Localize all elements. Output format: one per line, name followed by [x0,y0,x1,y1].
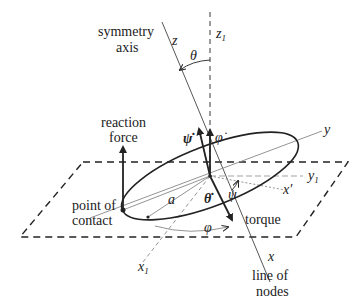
phi-dot-label: φ̇ [215,130,227,145]
y-label: y [322,122,331,137]
point-of-contact-label-2: contact [72,213,113,228]
psi-dot-arrow [199,129,210,176]
theta-label: θ [190,48,197,63]
x-prime-label: x′ [282,182,293,197]
x1-label: x1 [137,259,149,276]
psi-dot-label: ψ̇ [183,131,195,146]
ground-plane [20,162,348,237]
phi-arc [155,226,228,231]
point-of-contact-label-1: point of [72,198,116,213]
x-prime-axis [210,176,285,190]
rolling-disc-diagram: symmetry axis z z1 θ reaction force ψ̇ φ… [0,0,363,308]
phi-label: φ [204,220,212,235]
reaction-force-label-1: reaction [101,115,146,130]
y1-label: y1 [306,168,319,185]
x-label: x [267,249,275,264]
line-of-nodes-label-1: line of [252,268,288,283]
psi-label: ψ [228,187,237,202]
z-label: z [171,33,178,48]
symmetry-axis-label-2: axis [116,40,139,55]
reaction-force-label-2: force [109,130,138,145]
symmetry-axis-label-1: symmetry [98,24,154,39]
line-of-nodes-label-2: nodes [256,284,289,299]
z1-label: z1 [215,26,226,43]
a-label: a [168,192,175,207]
rim-point [146,215,149,218]
torque-label: torque [245,212,281,227]
z-symmetry-axis [162,22,270,282]
theta-dot-label: θ̇ [204,191,214,206]
